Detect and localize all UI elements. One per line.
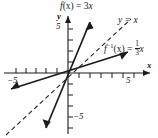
x-axis-label: x: [147, 61, 152, 70]
label-function-f: f(x) = 3x: [60, 2, 93, 12]
line-f-inverse-one-third-x: [11, 52, 128, 89]
y-tick-label-minus-5: −5: [73, 112, 84, 121]
y-axis-label: y: [57, 12, 61, 21]
inverse-function-graph-figure: f(x) = 3x y = x f−1(x) = 13x x y 5 −5 5 …: [0, 0, 158, 138]
x-axis-arrowhead: [143, 70, 150, 76]
y-tick-label-5: 5: [56, 22, 61, 31]
x-tick-label-5: 5: [126, 76, 131, 85]
label-identity-line: y = x: [118, 16, 138, 26]
x-tick-label-minus-5: −5: [7, 76, 18, 85]
f-arrowhead-up: [85, 22, 93, 31]
label-function-f-inverse: f−1(x) = 13x: [104, 40, 144, 56]
y-axis-arrowhead: [65, 16, 71, 23]
